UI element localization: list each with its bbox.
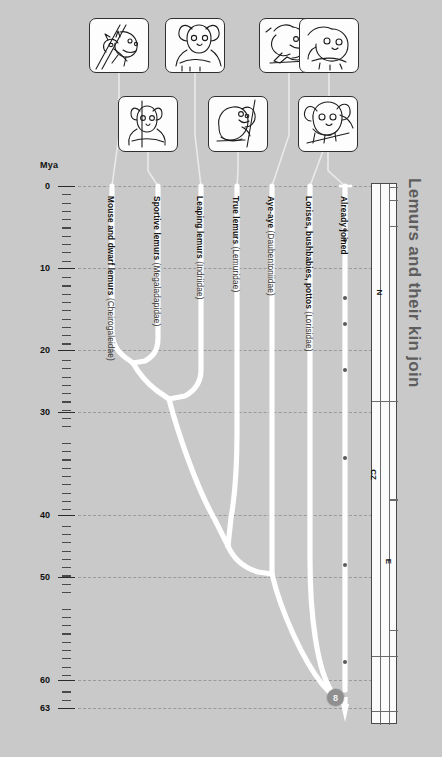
lineage-event-dot[interactable] bbox=[343, 322, 347, 326]
geo-epoch-divider bbox=[389, 630, 398, 631]
tip-label-common-name: Leaping lemurs bbox=[195, 196, 205, 259]
geo-period-divider bbox=[372, 401, 398, 402]
tip-label-family: (Cheirogaleidae) bbox=[106, 295, 116, 360]
geo-epoch-divider bbox=[372, 656, 398, 657]
tip-label-4: Aye-aye (Daubentoniidae) bbox=[266, 196, 276, 296]
tip-label-family: (Daubentoniidae) bbox=[266, 228, 276, 296]
geo-epoch-divider bbox=[389, 226, 398, 227]
tip-label-family: (Lemuridae) bbox=[231, 244, 241, 292]
geo-vertical-divider-2 bbox=[389, 184, 390, 725]
geo-vertical-divider-1 bbox=[380, 184, 381, 725]
figure-canvas: 010203040506063 Mya bbox=[0, 0, 442, 757]
tip-label-2: Leaping lemurs (Indriidae) bbox=[195, 196, 205, 300]
figure-title: Lemurs and their kin join bbox=[404, 178, 424, 388]
geo-epoch-divider bbox=[372, 711, 398, 712]
geo-period-label: CZ bbox=[369, 469, 378, 480]
geo-period-label: N bbox=[375, 290, 384, 296]
tip-label-family: (Lorisidae) bbox=[304, 309, 314, 352]
lineage-event-dot[interactable] bbox=[343, 456, 347, 460]
root-arrow bbox=[341, 704, 349, 722]
geologic-timescale: NCZE bbox=[371, 183, 397, 724]
tip-label-1: Sportive lemurs (Megaladapidae) bbox=[152, 196, 162, 326]
geo-period-label: E bbox=[384, 559, 393, 564]
tip-label-common-name: True lemurs bbox=[231, 196, 241, 244]
tip-label-common-name: Sportive lemurs bbox=[152, 196, 162, 260]
root-node-number: 8 bbox=[333, 693, 338, 703]
tip-label-5: Lorises, bushbabies, pottos (Lorisidae) bbox=[304, 196, 314, 352]
geo-epoch-divider bbox=[389, 200, 398, 201]
tip-label-family: (Megaladapidae) bbox=[152, 260, 162, 326]
tip-label-0: Mouse and dwarf lemurs (Cheirogaleidae) bbox=[106, 196, 116, 361]
branch-node-c-to-d bbox=[228, 546, 272, 574]
tip-label-common-name: Already joined bbox=[339, 196, 349, 255]
geo-epoch-divider bbox=[389, 500, 398, 501]
tip-label-common-name: Aye-aye bbox=[266, 196, 276, 228]
branch-node-a-to-b bbox=[133, 363, 169, 399]
lineage-event-dot[interactable] bbox=[343, 563, 347, 567]
root-node-badge[interactable]: 8 bbox=[327, 689, 344, 706]
tip-label-6: Already joined bbox=[339, 196, 349, 255]
lineage-event-dot[interactable] bbox=[343, 368, 347, 372]
tip-label-family: (Indriidae) bbox=[195, 259, 205, 300]
tip-label-common-name: Lorises, bushbabies, pottos bbox=[304, 196, 314, 309]
lineage-event-dot[interactable] bbox=[343, 660, 347, 664]
branch-node-b-to-c bbox=[169, 399, 228, 546]
tip-label-3: True lemurs (Lemuridae) bbox=[231, 196, 241, 292]
geo-period-divider bbox=[389, 187, 398, 188]
tip-label-common-name: Mouse and dwarf lemurs bbox=[106, 196, 116, 295]
lineage-event-dot[interactable] bbox=[343, 296, 347, 300]
